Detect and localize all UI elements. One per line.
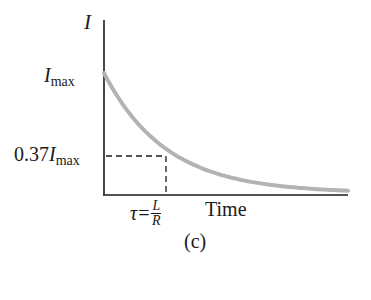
imax-tick-label: Imax	[44, 64, 75, 87]
decay-curve	[104, 73, 348, 191]
037-imax-tick-label: 0.37Imax	[14, 143, 80, 166]
l-over-r-fraction: L R	[151, 199, 161, 228]
tau-tick-label: τ = L R	[130, 199, 161, 228]
tau-symbol: τ	[130, 202, 137, 225]
fraction-numerator: L	[151, 199, 161, 214]
figure-caption: (c)	[184, 230, 206, 253]
y-axis-label: I	[84, 10, 91, 35]
x-axis-label: Time	[205, 198, 247, 221]
equals-sign: =	[138, 202, 149, 225]
rl-decay-figure: I Imax 0.37Imax τ = L R Time (c)	[0, 0, 371, 300]
imax-subscript: max	[51, 74, 75, 89]
imax-subscript: max	[56, 153, 80, 168]
fraction-denominator: R	[152, 214, 161, 228]
imax-symbol: I	[49, 143, 56, 165]
coefficient: 0.37	[14, 143, 49, 165]
imax-symbol: I	[44, 64, 51, 86]
